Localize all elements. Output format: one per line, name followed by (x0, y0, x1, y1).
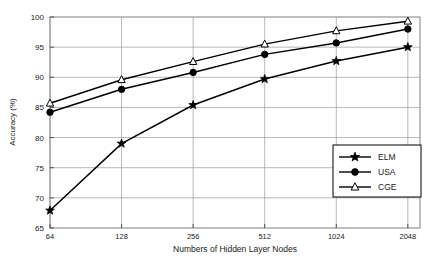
circle-icon (118, 86, 124, 92)
x-tick-label: 128 (115, 232, 128, 241)
circle-icon (352, 169, 359, 176)
chart-figure-root: 65707580859095100 6412825651210242048 Nu… (0, 0, 436, 265)
y-tick-label: 100 (31, 13, 45, 22)
chart-legend: ELM USA CGE (333, 145, 421, 197)
legend-label-cge: CGE (378, 182, 397, 192)
y-tick-label: 85 (35, 103, 44, 112)
legend-label-usa: USA (378, 167, 396, 177)
x-tick-label: 256 (187, 232, 200, 241)
circle-icon (405, 26, 411, 32)
y-axis-label: Accuracy (%) (8, 98, 17, 146)
y-tick-label: 80 (35, 134, 44, 143)
y-tick-label: 95 (35, 43, 44, 52)
circle-icon (190, 69, 196, 75)
y-tick-label: 75 (35, 164, 44, 173)
plot-area: 65707580859095100 6412825651210242048 (31, 13, 420, 241)
x-tick-label: 2048 (399, 232, 416, 241)
circle-icon (333, 40, 339, 46)
x-tick-label: 512 (258, 232, 271, 241)
x-tick-label: 1024 (328, 232, 345, 241)
y-tick-label: 70 (35, 194, 44, 203)
accuracy-vs-hidden-nodes-chart: 65707580859095100 6412825651210242048 Nu… (0, 0, 436, 265)
x-axis-label: Numbers of Hidden Layer Nodes (173, 244, 297, 254)
x-tick-label: 64 (46, 232, 54, 241)
y-tick-label: 65 (35, 224, 44, 233)
legend-box (333, 145, 421, 197)
circle-icon (47, 109, 53, 115)
circle-icon (262, 51, 268, 57)
legend-label-elm: ELM (378, 152, 395, 162)
y-tick-label: 90 (35, 73, 44, 82)
